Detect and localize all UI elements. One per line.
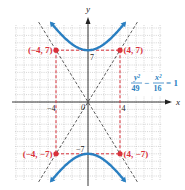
hyperbola-chart: (−4, 7)(4, 7)(−4, −7)(4, −7)−447−70xyy²4…	[0, 0, 185, 190]
labels: (−4, 7)(4, 7)(−4, −7)(4, −7)−447−70xyy²4…	[23, 4, 183, 159]
vertex-point	[117, 48, 122, 53]
point-label: (4, −7)	[124, 149, 149, 159]
vertex-point	[117, 151, 122, 156]
tick-label: −4	[47, 104, 56, 113]
axes	[12, 17, 172, 186]
y-axis-label: y	[85, 4, 90, 14]
x-axis-label: x	[175, 97, 180, 107]
equation-rhs: = 1	[166, 78, 178, 88]
point-label: (−4, 7)	[28, 45, 53, 55]
tick-label: 4	[122, 104, 126, 113]
equation-denominator: 16	[154, 84, 162, 93]
equation-numerator: y²	[133, 73, 141, 82]
tick-label: −7	[76, 145, 85, 154]
vertex-point	[53, 151, 58, 156]
vertex-point	[53, 48, 58, 53]
tick-label: 7	[90, 53, 94, 62]
equation-denominator: 49	[132, 84, 140, 93]
equation-numerator: x²	[154, 73, 162, 82]
point-label: (4, 7)	[124, 45, 144, 55]
point-label: (−4, −7)	[23, 149, 53, 159]
y-axis-arrow-icon	[86, 17, 91, 24]
tick-label: 0	[81, 103, 85, 112]
x-axis-arrow-icon	[165, 100, 172, 105]
equation-minus: −	[144, 78, 149, 88]
